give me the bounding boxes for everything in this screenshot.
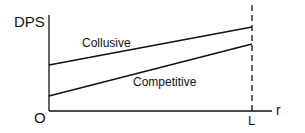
collusive-line [49, 27, 252, 65]
collusive-label: Collusive [82, 36, 131, 50]
limit-label: L [248, 113, 255, 128]
origin-label: O [34, 109, 46, 126]
competitive-label: Competitive [133, 75, 197, 89]
y-axis-label: DPS [14, 13, 45, 30]
dps-diagram: DPS O r L Collusive Competitive [0, 0, 305, 133]
x-axis-label: r [276, 102, 281, 118]
